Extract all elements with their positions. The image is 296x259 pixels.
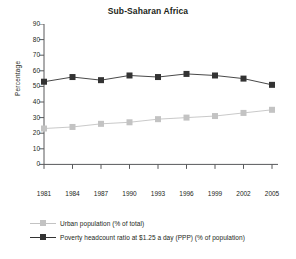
chart-legend: Urban population (% of total) Poverty he…: [30, 216, 296, 244]
x-tick-label: 2005: [259, 190, 285, 197]
x-tick-label: 1984: [60, 190, 86, 197]
x-tick-label: 1981: [31, 190, 57, 197]
legend-marker-icon: [40, 234, 46, 240]
data-point[interactable]: [70, 74, 76, 80]
data-series-layer: [41, 71, 275, 132]
data-point[interactable]: [241, 110, 247, 116]
legend-item-poverty-headcount[interactable]: Poverty headcount ratio at $1.25 a day (…: [30, 230, 296, 244]
data-point[interactable]: [184, 71, 190, 77]
data-point[interactable]: [70, 124, 76, 130]
data-point[interactable]: [41, 126, 47, 132]
plot-canvas: [0, 24, 296, 204]
series-poverty-headcount: [41, 71, 275, 88]
data-point[interactable]: [212, 113, 218, 119]
data-point[interactable]: [41, 79, 47, 85]
data-point[interactable]: [98, 77, 104, 83]
legend-label: Urban population (% of total): [56, 220, 144, 227]
x-tick-label: 1993: [145, 190, 171, 197]
data-point[interactable]: [212, 72, 218, 78]
data-point[interactable]: [98, 121, 104, 127]
y-axis-ticks: [39, 24, 44, 164]
data-point[interactable]: [269, 107, 275, 113]
data-point[interactable]: [127, 119, 133, 125]
legend-item-urban-population[interactable]: Urban population (% of total): [30, 216, 296, 230]
x-axis-ticks: [44, 164, 272, 169]
x-tick-label: 1999: [202, 190, 228, 197]
x-tick-label: 1996: [174, 190, 200, 197]
chart-figure: Sub-Saharan Africa Percentage 90 80 70 6…: [0, 0, 296, 259]
legend-marker-icon: [40, 220, 46, 226]
legend-label: Poverty headcount ratio at $1.25 a day (…: [56, 234, 245, 241]
data-point[interactable]: [184, 115, 190, 121]
x-axis-tick-labels: 198119841987199019931996199920022005: [0, 184, 296, 200]
chart-title: Sub-Saharan Africa: [0, 6, 296, 16]
data-point[interactable]: [127, 72, 133, 78]
data-point[interactable]: [155, 74, 161, 80]
x-tick-label: 1990: [117, 190, 143, 197]
axis-lines: [44, 24, 278, 164]
series-urban-population: [41, 107, 275, 132]
data-point[interactable]: [241, 76, 247, 82]
legend-key-poverty-headcount: [30, 232, 56, 242]
x-tick-label: 1987: [88, 190, 114, 197]
x-tick-label: 2002: [231, 190, 257, 197]
data-point[interactable]: [269, 82, 275, 88]
legend-key-urban-population: [30, 218, 56, 228]
data-point[interactable]: [155, 116, 161, 122]
plot-area: Percentage 90 80 70 60 50 40 30 20 10 0: [0, 24, 296, 204]
